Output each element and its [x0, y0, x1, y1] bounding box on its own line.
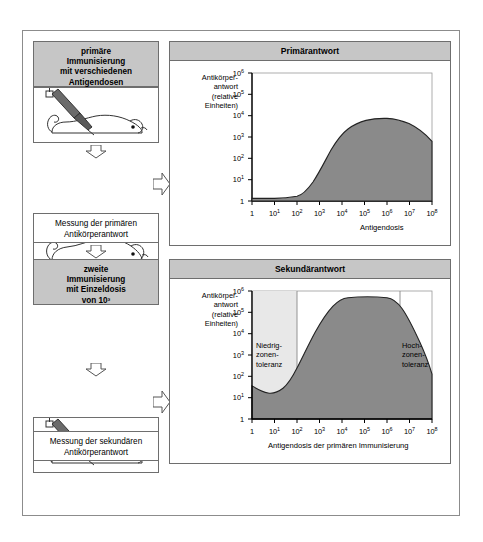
panel-primary-response: Primärantwort — [169, 41, 451, 246]
x-tick-primary-7: 107 — [404, 208, 415, 218]
x-tick-secondary-7: 107 — [404, 426, 415, 436]
cap1-line-2: Antikörperantwort — [64, 230, 128, 239]
x-tick-secondary-6: 106 — [381, 426, 392, 436]
x-tick-primary-5: 105 — [359, 208, 370, 218]
x-tick-secondary-5: 105 — [359, 426, 370, 436]
cap1-line-1: Messung der primären — [55, 219, 137, 228]
down-arrow-icon-2 — [85, 245, 107, 259]
syringe-mouse-icon — [34, 88, 158, 142]
panel-secondary-response: Sekundärantwort — [169, 259, 451, 464]
mouse-eye — [131, 252, 135, 256]
secondary-immunisation-header-text: zweite Immunisierung mit Einzeldosis von… — [34, 260, 158, 311]
cap2-line-2: Antikörperantwort — [64, 448, 128, 457]
y-tick-secondary-3: 103 — [233, 350, 244, 360]
x-tick-secondary-0: 1 — [250, 427, 254, 436]
secondary-measurement-caption: Messung der sekundären Antikörperantwort — [33, 431, 159, 461]
x-tick-primary-1: 101 — [269, 208, 280, 218]
lzt-1: Niedrig- — [256, 341, 282, 350]
down-arrow-icon-3 — [85, 363, 107, 377]
primary-measurement-caption: Messung der primären Antikörperantwort — [33, 213, 159, 243]
chart-secondary-response: 1 101 102 103 104 105 106 1 101 102 103 … — [170, 279, 450, 459]
x-tick-primary-8: 108 — [426, 208, 437, 218]
x-tick-secondary-8: 108 — [426, 426, 437, 436]
y-tick-primary-1: 101 — [233, 174, 244, 184]
y-tick-primary-2: 102 — [233, 153, 244, 163]
hdr-line-1: primäre — [81, 47, 111, 56]
mouse-eye — [131, 125, 135, 129]
ylab-s-4: Einheiten) — [205, 319, 238, 328]
ylab-s-3: (relative — [212, 310, 238, 319]
hdr2-line-1: zweite — [84, 265, 109, 274]
x-tick-primary-6: 106 — [381, 208, 392, 218]
x-tick-secondary-2: 102 — [291, 426, 302, 436]
cap2-line-1: Messung der sekundären — [50, 437, 142, 446]
ylab-p-3: (relative — [212, 92, 238, 101]
y-tick-primary-4: 104 — [233, 110, 244, 120]
ylab-p-4: Einheiten) — [205, 101, 238, 110]
hdr-line-2: Immunisierung — [67, 57, 126, 66]
hdr2-line-2: Immunisierung — [67, 275, 126, 284]
panel-primary-title: Primärantwort — [170, 42, 450, 61]
x-tick-primary-2: 102 — [291, 208, 302, 218]
x-axis-title-secondary: Antigendosis der primären Immunisierung — [268, 441, 409, 450]
hdr2-line-4: von 10³ — [82, 296, 111, 305]
primary-injection-illustration — [33, 87, 159, 143]
lzt-3: toleranz — [256, 360, 282, 369]
high-zone-tolerance-label: Hoch- zonen- toleranz — [402, 341, 428, 369]
x-tick-primary-3: 103 — [314, 208, 325, 218]
x-tick-secondary-3: 103 — [314, 426, 325, 436]
y-tick-primary-3: 103 — [233, 132, 244, 142]
x-axis-title-primary: Antigendosis — [360, 223, 403, 232]
panel-secondary-title: Sekundärantwort — [170, 260, 450, 279]
lzt-2: zonen- — [256, 350, 279, 359]
x-tick-secondary-4: 104 — [336, 426, 347, 436]
ylab-p-1: Antikörper- — [202, 73, 238, 82]
down-arrow-icon-1 — [85, 145, 107, 159]
x-tick-primary-0: 1 — [250, 209, 254, 218]
chart-primary-response: 1 101 102 103 104 105 106 1 101 102 103 … — [170, 61, 450, 241]
hzt-1: Hoch- — [402, 341, 422, 350]
secondary-immunisation-header: zweite Immunisierung mit Einzeldosis von… — [33, 259, 159, 305]
primary-measurement-caption-text: Messung der primären Antikörperantwort — [34, 214, 158, 245]
y-axis-title-primary: Antikörper- antwort (relative Einheiten) — [170, 73, 238, 111]
y-tick-primary-0: 1 — [240, 197, 244, 206]
low-zone-tolerance-label: Niedrig- zonen- toleranz — [256, 341, 282, 369]
primary-immunisation-header: primäre Immunisierung mit verschiedenen … — [33, 41, 159, 87]
charts-column: Primärantwort — [169, 41, 451, 505]
secondary-measurement-caption-text: Messung der sekundären Antikörperantwort — [34, 432, 158, 463]
hdr-line-4: Antigendosen — [69, 78, 124, 87]
hdr2-line-3: mit Einzeldosis — [66, 285, 126, 294]
ylab-p-2: antwort — [214, 82, 238, 91]
ylab-s-1: Antikörper- — [202, 291, 238, 300]
hzt-2: zonen- — [402, 350, 425, 359]
y-tick-secondary-4: 104 — [233, 328, 244, 338]
y-tick-secondary-0: 1 — [240, 415, 244, 424]
y-tick-secondary-1: 101 — [233, 392, 244, 402]
y-axis-title-secondary: Antikörper- antwort (relative Einheiten) — [170, 291, 238, 329]
y-tick-secondary-2: 102 — [233, 371, 244, 381]
x-tick-secondary-1: 101 — [269, 426, 280, 436]
protocol-column: primäre Immunisierung mit verschiedenen … — [33, 41, 159, 505]
primary-immunisation-header-text: primäre Immunisierung mit verschiedenen … — [34, 42, 158, 93]
hzt-3: toleranz — [402, 360, 428, 369]
hdr-line-3: mit verschiedenen — [60, 67, 132, 76]
figure-frame: primäre Immunisierung mit verschiedenen … — [22, 30, 460, 516]
ylab-s-2: antwort — [214, 300, 238, 309]
x-tick-primary-4: 104 — [336, 208, 347, 218]
